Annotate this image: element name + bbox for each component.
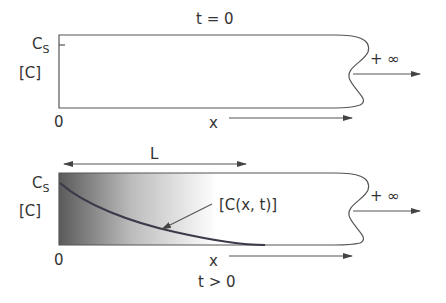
x-label-top: x (209, 114, 218, 132)
origin-label-bottom: 0 (54, 251, 64, 269)
cs-label-bottom: CS (32, 174, 49, 195)
origin-label-top: 0 (54, 113, 64, 131)
bottom-panel: L CS [C] [C(x, t)] 0 x t > 0 + ∞ (19, 145, 420, 291)
length-label: L (150, 145, 159, 163)
cs-label-top: CS (32, 35, 49, 56)
x-label-bottom: x (209, 252, 218, 270)
time-label-bottom: t > 0 (198, 273, 236, 291)
diffusion-diagram: t = 0 CS [C] 0 x + ∞ L CS [C] [C(x, t)] … (0, 0, 446, 303)
concentration-label-top: [C] (19, 64, 41, 82)
time-label-top: t = 0 (196, 10, 234, 28)
top-panel: t = 0 CS [C] 0 x + ∞ (19, 10, 420, 132)
curve-label: [C(x, t)] (219, 196, 277, 214)
infinity-label-bottom: + ∞ (370, 187, 400, 205)
semi-infinite-bar-top (59, 35, 369, 108)
infinity-label-top: + ∞ (370, 50, 400, 68)
concentration-label-bottom: [C] (19, 202, 41, 220)
